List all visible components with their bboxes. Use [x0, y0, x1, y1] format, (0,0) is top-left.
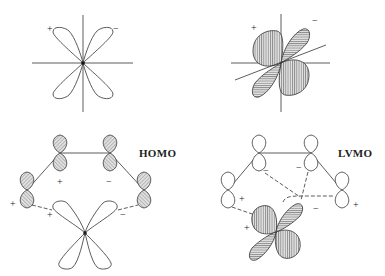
sign-minus: −	[313, 204, 319, 214]
sign-minus: −	[263, 166, 269, 176]
sign-plus: +	[10, 199, 16, 209]
lvmo-title: LVMO	[338, 147, 372, 159]
sign-minus: −	[113, 24, 119, 34]
sign-plus: +	[47, 210, 53, 220]
sign-minus: −	[106, 177, 112, 187]
sign-plus: +	[239, 194, 245, 204]
sign-plus: +	[47, 24, 53, 34]
sign-minus: −	[120, 210, 126, 220]
sign-plus: +	[244, 223, 250, 233]
sign-plus: +	[57, 177, 63, 187]
homo-title: HOMO	[139, 147, 176, 159]
orbital-diagram	[0, 0, 385, 276]
sign-plus: +	[353, 200, 359, 210]
sign-minus: −	[312, 16, 318, 26]
sign-minus: −	[296, 163, 302, 173]
sign-plus: +	[251, 23, 257, 33]
panel-metal-d-orbital-hybridized	[231, 14, 330, 112]
panel-homo	[20, 135, 151, 269]
